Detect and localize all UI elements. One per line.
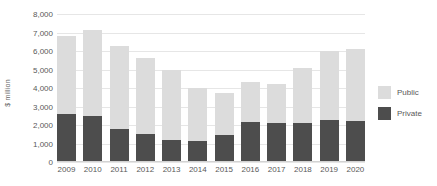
x-tick-label: 2010 [83,165,102,179]
bar-group-2018[interactable] [293,14,312,162]
x-tick-label: 2017 [267,165,286,179]
bar-group-2016[interactable] [241,14,260,162]
legend-swatch-icon [378,107,391,120]
bar-group-2011[interactable] [110,14,129,162]
y-tick-label: 8,000 [0,10,53,19]
bar-segment-public[interactable] [136,58,155,134]
bar-segment-public[interactable] [215,93,234,135]
bar-segment-public[interactable] [57,36,76,114]
x-tick-label: 2016 [241,165,260,179]
legend-label: Public [397,88,419,97]
bar-segment-public[interactable] [83,30,102,116]
y-tick-label: 6,000 [0,47,53,56]
legend-item-public[interactable]: Public [378,86,422,99]
bar-segment-public[interactable] [320,51,339,120]
y-tick-label: 1,000 [0,139,53,148]
bar-segment-private[interactable] [293,123,312,162]
bar-group-2013[interactable] [162,14,181,162]
legend-item-private[interactable]: Private [378,107,422,120]
y-tick-label: 5,000 [0,65,53,74]
bar-segment-private[interactable] [215,135,234,162]
bar-group-2019[interactable] [320,14,339,162]
y-tick-label: 4,000 [0,84,53,93]
bar-segment-public[interactable] [293,68,312,123]
bar-segment-public[interactable] [188,88,207,141]
y-tick-label: 2,000 [0,121,53,130]
x-tick-label: 2012 [136,165,155,179]
x-tick-label: 2018 [293,165,312,179]
bar-segment-private[interactable] [136,134,155,162]
legend-label: Private [397,109,422,118]
x-tick-label: 2011 [110,165,129,179]
bar-group-2012[interactable] [136,14,155,162]
y-tick-label: 7,000 [0,28,53,37]
bar-segment-private[interactable] [57,114,76,162]
bar-series-container [57,14,365,162]
x-axis-tick-labels: 2009201020112012201320142015201620172018… [57,165,365,179]
y-axis-tick-labels: 8,0007,0006,0005,0004,0003,0002,0001,000… [0,0,53,186]
x-tick-label: 2020 [346,165,365,179]
x-tick-label: 2019 [320,165,339,179]
x-axis-baseline [57,161,365,162]
bar-group-2010[interactable] [83,14,102,162]
bar-segment-public[interactable] [110,46,129,129]
y-tick-label: 0 [0,158,53,167]
chart-legend: PublicPrivate [378,86,422,120]
x-tick-label: 2013 [162,165,181,179]
bar-segment-public[interactable] [162,70,181,140]
bar-segment-private[interactable] [83,116,102,162]
bar-group-2017[interactable] [267,14,286,162]
bar-segment-public[interactable] [346,49,365,121]
legend-swatch-icon [378,86,391,99]
x-tick-label: 2009 [57,165,76,179]
bar-group-2020[interactable] [346,14,365,162]
bar-group-2015[interactable] [215,14,234,162]
stacked-bar-chart: $ million 8,0007,0006,0005,0004,0003,000… [0,0,437,186]
bar-segment-private[interactable] [110,129,129,162]
bar-segment-public[interactable] [267,84,286,123]
y-tick-label: 3,000 [0,102,53,111]
bar-segment-public[interactable] [241,82,260,122]
x-tick-label: 2015 [215,165,234,179]
x-tick-label: 2014 [188,165,207,179]
bar-group-2014[interactable] [188,14,207,162]
bar-segment-private[interactable] [320,120,339,162]
bar-group-2009[interactable] [57,14,76,162]
plot-area [57,14,365,162]
gridline [57,162,365,163]
bar-segment-private[interactable] [162,140,181,162]
bar-segment-private[interactable] [267,123,286,162]
bar-segment-private[interactable] [346,121,365,162]
bar-segment-private[interactable] [241,122,260,162]
bar-segment-private[interactable] [188,141,207,162]
